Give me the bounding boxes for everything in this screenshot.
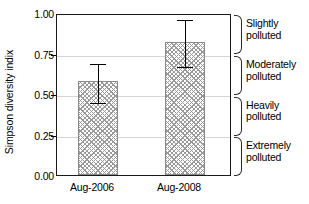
x-tick-label-aug-2008: Aug-2008	[134, 181, 224, 193]
annotation-slightly-polluted-line2: polluted	[246, 30, 281, 42]
error-bar-cap-lower-aug-2008	[177, 67, 193, 69]
annotation-extremely-polluted: Extremely polluted	[246, 140, 291, 163]
annotation-slightly-polluted-line1: Slightly	[246, 18, 281, 30]
error-bar-line-aug-2008	[185, 20, 186, 67]
annotation-moderately-polluted-line1: Moderately	[246, 59, 296, 71]
y-tick-label-1.00: 1.00	[20, 9, 54, 19]
annotation-heavily-polluted-line2: polluted	[246, 111, 281, 123]
annotation-heavily-polluted: Heavily polluted	[246, 100, 281, 123]
bracket-extremely-polluted	[234, 137, 242, 176]
annotation-moderately-polluted: Moderately polluted	[246, 59, 296, 82]
annotation-extremely-polluted-line2: polluted	[246, 152, 291, 164]
annotation-moderately-polluted-line2: polluted	[246, 71, 296, 83]
chart-figure: Simpson diversity indix 1.00 0.75 0.50 0…	[0, 0, 309, 204]
bracket-heavily-polluted	[234, 97, 242, 136]
error-bar-cap-upper-aug-2008	[177, 20, 193, 22]
y-tick-label-0.50: 0.50	[20, 90, 54, 100]
plot-area	[56, 14, 231, 176]
error-bar-line-aug-2006	[98, 64, 99, 103]
x-tick-label-aug-2006: Aug-2006	[47, 181, 137, 193]
annotation-slightly-polluted: Slightly polluted	[246, 18, 281, 41]
bracket-slightly-polluted	[234, 15, 242, 54]
y-tick-label-0.75: 0.75	[20, 50, 54, 60]
y-axis-label: Simpson diversity indix	[0, 0, 18, 204]
error-bar-cap-upper-aug-2006	[90, 64, 106, 66]
error-bar-cap-lower-aug-2006	[90, 103, 106, 105]
annotation-extremely-polluted-line1: Extremely	[246, 140, 291, 152]
y-axis-tick-labels: 1.00 0.75 0.50 0.25 0.00	[18, 0, 54, 204]
bracket-moderately-polluted	[234, 56, 242, 95]
y-tick-label-0.00: 0.00	[20, 171, 54, 181]
y-tick-label-0.25: 0.25	[20, 131, 54, 141]
